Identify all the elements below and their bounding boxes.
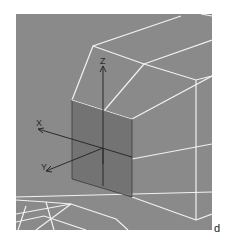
mesh-edge [18, 206, 26, 230]
figure-label: d [214, 222, 220, 234]
mesh-edge [144, 40, 212, 64]
mesh-edge [93, 46, 212, 80]
mesh-edge [201, 14, 212, 16]
mesh-edge [196, 214, 212, 220]
mesh-edge [132, 197, 196, 220]
mesh-edge [132, 144, 212, 159]
mesh-edge [16, 216, 86, 230]
mesh-edge [132, 76, 212, 119]
viewport-canvas: Z X Y [16, 14, 212, 230]
x-axis-label: X [36, 118, 42, 128]
z-axis-label: Z [100, 56, 106, 66]
y-axis-label: Y [41, 162, 47, 172]
mesh-edge [16, 192, 212, 197]
mesh-edge [46, 202, 54, 230]
mesh-edge [103, 64, 144, 112]
3d-viewport[interactable]: Z X Y [16, 14, 212, 230]
